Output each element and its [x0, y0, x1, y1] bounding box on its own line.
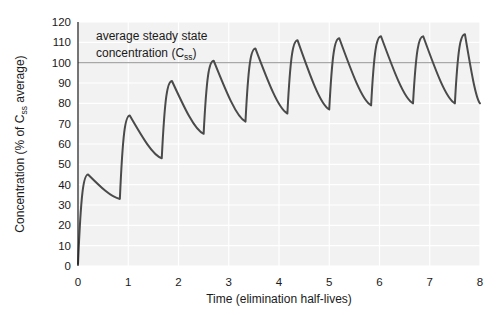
- y-tick-label: 10: [58, 240, 71, 252]
- y-tick-label: 60: [58, 138, 71, 150]
- annotation-line-2-subscript: ss: [184, 52, 193, 62]
- x-tick-label: 7: [427, 276, 433, 288]
- y-axis-title-pre: Concentration (% of C: [13, 114, 27, 232]
- x-tick-label: 8: [477, 276, 483, 288]
- y-axis-title-subscript: ss: [19, 106, 29, 115]
- y-tick-label: 70: [58, 118, 71, 130]
- y-tick-label: 110: [53, 36, 71, 48]
- y-tick-label: 100: [52, 57, 71, 69]
- y-tick-label: 90: [58, 77, 71, 89]
- y-tick-label: 120: [52, 16, 71, 28]
- x-tick-label: 3: [226, 276, 232, 288]
- y-axis-title: Concentration (% of Css average): [13, 55, 29, 232]
- x-tick-label: 6: [376, 276, 382, 288]
- annotation-line-2: concentration (Css): [96, 46, 197, 62]
- y-axis-title-post: average): [13, 55, 27, 106]
- annotation-line-2-post: ): [193, 46, 197, 60]
- y-tick-label: 40: [58, 179, 71, 191]
- y-tick-label: 50: [58, 158, 71, 170]
- y-tick-label: 0: [65, 260, 71, 272]
- y-tick-label: 30: [58, 199, 71, 211]
- y-tick-label: 80: [58, 97, 71, 109]
- x-tick-label: 5: [326, 276, 332, 288]
- concentration-vs-time-chart: 0102030405060708090100110120 012345678 T…: [0, 0, 501, 315]
- x-tick-label: 1: [125, 276, 131, 288]
- x-axis-title: Time (elimination half-lives): [206, 292, 352, 306]
- chart-figure: 0102030405060708090100110120 012345678 T…: [0, 0, 501, 315]
- x-tick-label: 2: [175, 276, 181, 288]
- svg-text:Concentration (% of Css averag: Concentration (% of Css average): [13, 55, 29, 232]
- x-tick-label: 0: [75, 276, 81, 288]
- annotation-line-2-pre: concentration (C: [96, 46, 184, 60]
- annotation-line-1: average steady state: [96, 29, 208, 43]
- y-tick-label: 20: [58, 219, 71, 231]
- x-tick-label: 4: [276, 276, 283, 288]
